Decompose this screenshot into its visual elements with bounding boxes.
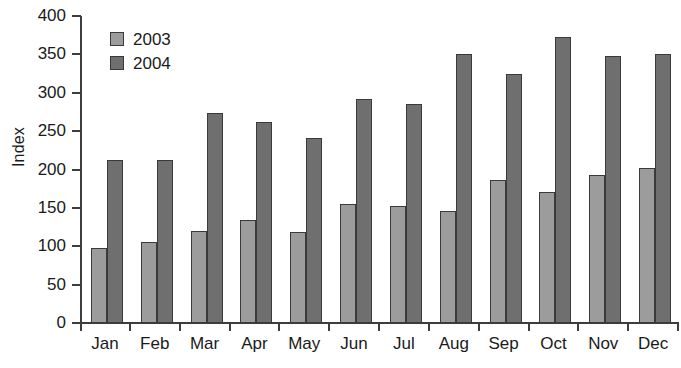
bar-jul-2003 [390,206,406,323]
y-axis-tick-label: 200 [24,161,66,178]
bar-apr-2003 [240,220,256,323]
bar-may-2004 [306,138,322,323]
y-axis-tick-label: 100 [24,237,66,254]
x-axis-tick [478,322,480,331]
x-axis-tick [229,322,231,331]
bar-jan-2003 [91,248,107,323]
bar-jun-2003 [340,204,356,323]
x-axis-tick [627,322,629,331]
x-axis-label-dec: Dec [623,334,681,354]
bar-nov-2003 [589,175,605,323]
y-axis-tick-label: 300 [24,84,66,101]
legend-item-2003: 2003 [110,28,171,50]
y-axis-tick-label: 150 [24,199,66,216]
x-axis-tick [129,322,131,331]
y-axis-title: Index [10,102,28,192]
bar-apr-2004 [256,122,272,323]
bar-jun-2004 [356,99,372,323]
bar-dec-2004 [655,54,671,323]
x-axis-tick [80,322,82,331]
bar-feb-2004 [157,160,173,323]
bar-aug-2003 [440,211,456,323]
y-axis-tick-label: 50 [24,276,66,293]
bar-oct-2004 [555,37,571,323]
bar-jul-2004 [406,104,422,324]
bar-nov-2004 [605,56,621,323]
x-axis-tick [528,322,530,331]
x-axis-tick [378,322,380,331]
bar-dec-2003 [639,168,655,323]
chart-legend: 20032004 [110,28,171,76]
y-axis-tick-label: 250 [24,122,66,139]
bar-mar-2003 [191,231,207,323]
bar-oct-2003 [539,192,555,323]
y-axis-tick-label: 400 [24,7,66,24]
y-axis-tick-label: 0 [24,314,66,331]
bar-mar-2004 [207,113,223,323]
legend-swatch-icon [110,32,124,46]
legend-swatch-icon [110,56,124,70]
y-axis-tick-label: 350 [24,45,66,62]
bar-feb-2003 [141,242,157,323]
bar-chart: Index 400350300250200150100500 JanFebMar… [0,0,681,368]
legend-item-label: 2003 [133,31,171,48]
legend-item-2004: 2004 [110,52,171,74]
x-axis-tick [677,322,679,331]
x-axis-tick [328,322,330,331]
x-axis-tick [179,322,181,331]
bar-aug-2004 [456,54,472,323]
x-axis-tick [278,322,280,331]
bar-sep-2004 [506,74,522,323]
x-axis-tick [428,322,430,331]
bar-sep-2003 [490,180,506,323]
legend-item-label: 2004 [133,55,171,72]
bar-jan-2004 [107,160,123,323]
bar-may-2003 [290,232,306,323]
x-axis-tick [577,322,579,331]
